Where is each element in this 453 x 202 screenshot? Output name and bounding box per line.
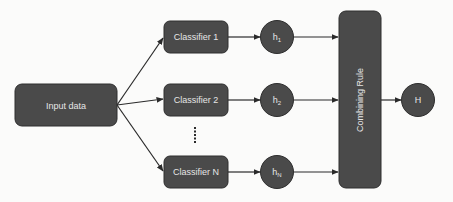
combining-rule-label: Combining Rule [355, 68, 365, 132]
classifier-node-n-label: Classifier N [173, 167, 219, 177]
input-node-label: Input data [46, 101, 86, 111]
output-node-label: H [415, 95, 422, 105]
classifier-node-1: Classifier 1 [164, 21, 228, 53]
classifier-node-1-label: Classifier 1 [174, 32, 219, 42]
output-node: H [402, 84, 435, 117]
edges-hypotheses-to-combiner [294, 37, 338, 172]
classifier-node-2: Classifier 2 [164, 84, 228, 116]
classifier-node-2-label: Classifier 2 [174, 95, 219, 105]
edge-input-classifier-n [117, 105, 163, 171]
hypothesis-node-n: hN [261, 156, 294, 189]
hypothesis-node-1: h1 [261, 21, 294, 54]
edge-input-classifier-2 [117, 99, 163, 105]
input-node: Input data [15, 84, 117, 126]
edges-input-to-classifiers [117, 38, 163, 171]
edges-classifiers-to-hypotheses [228, 37, 260, 172]
combining-rule-node: Combining Rule [339, 11, 381, 188]
classifier-node-n: Classifier N [164, 156, 228, 188]
hypothesis-node-n-subscript: N [277, 172, 281, 178]
ensemble-diagram: Input data Classifier 1 Classifier 2 Cla… [0, 0, 453, 202]
edge-input-classifier-1 [117, 38, 163, 105]
hypothesis-node-2: h2 [261, 84, 294, 117]
ellipsis-dots [194, 127, 196, 143]
